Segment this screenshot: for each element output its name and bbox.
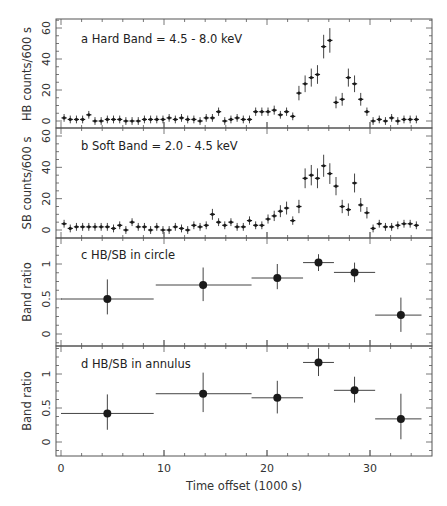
panel-d-title: d HB/SB in annulus (81, 357, 191, 371)
data-point (174, 225, 177, 228)
data-point (223, 119, 226, 122)
data-point (155, 225, 158, 228)
x-tick-label: 0 (58, 462, 65, 475)
y-tick-label: 60 (40, 129, 53, 143)
data-point (75, 225, 78, 228)
y-tick-label: 0.5 (40, 290, 53, 308)
data-point (103, 409, 111, 417)
data-point (100, 119, 103, 122)
data-point (304, 177, 307, 180)
data-point (273, 214, 276, 217)
data-point (365, 110, 368, 113)
data-point (248, 219, 251, 222)
data-point (103, 295, 111, 303)
data-point (149, 228, 152, 231)
data-point (143, 118, 146, 121)
data-point (106, 118, 109, 121)
data-point (180, 116, 183, 119)
data-point (310, 76, 313, 79)
data-point (260, 110, 263, 113)
data-point (273, 394, 281, 402)
y-tick-label: 1 (40, 371, 53, 378)
data-point (334, 101, 337, 104)
data-point (75, 118, 78, 121)
data-point (315, 358, 323, 366)
data-point (205, 224, 208, 227)
y-tick-label: 20 (40, 192, 53, 206)
data-point (359, 203, 362, 206)
data-point (199, 281, 207, 289)
y-axis-label-c: Band ratio (20, 262, 34, 322)
data-point (192, 224, 195, 227)
data-point (347, 76, 350, 79)
data-point (390, 225, 393, 228)
data-point (186, 228, 189, 231)
data-point (415, 224, 418, 227)
data-point (396, 224, 399, 227)
data-point (316, 177, 319, 180)
data-point (273, 274, 281, 282)
data-point (81, 225, 84, 228)
data-point (229, 118, 232, 121)
data-point (242, 118, 245, 121)
data-point (397, 311, 405, 319)
data-point (81, 118, 84, 121)
data-point (192, 118, 195, 121)
data-point (351, 268, 359, 276)
panel-a-title: a Hard Band = 4.5 - 8.0 keV (81, 32, 242, 46)
data-point (211, 116, 214, 119)
data-point (118, 118, 121, 121)
y-tick-label: 0 (40, 331, 53, 338)
data-point (124, 228, 127, 231)
data-point (328, 172, 331, 175)
y-tick-label: 20 (40, 83, 53, 97)
data-point (254, 110, 257, 113)
data-point (266, 217, 269, 220)
data-point (130, 119, 133, 122)
data-point (130, 221, 133, 224)
data-point (223, 224, 226, 227)
data-point (390, 116, 393, 119)
data-point (415, 118, 418, 121)
data-point (180, 227, 183, 230)
panel-c-title: c HB/SB in circle (81, 248, 175, 262)
y-axis-label-d: Band ratio (20, 371, 34, 431)
data-point (161, 228, 164, 231)
figure: 0204060020406000.5100.510102030 a Hard B… (0, 0, 447, 506)
y-tick-label: 0 (40, 118, 53, 125)
data-point (198, 225, 201, 228)
data-point (365, 211, 368, 214)
data-point (62, 116, 65, 119)
data-point (384, 225, 387, 228)
data-point (260, 224, 263, 227)
data-point (347, 208, 350, 211)
data-point (236, 225, 239, 228)
data-point (341, 98, 344, 101)
data-point (315, 259, 323, 267)
data-point (371, 227, 374, 230)
data-point (322, 164, 325, 167)
data-point (93, 119, 96, 122)
data-point (143, 225, 146, 228)
data-point (161, 118, 164, 121)
data-point (112, 227, 115, 230)
data-point (106, 225, 109, 228)
data-point (409, 222, 412, 225)
y-tick-label: 40 (40, 52, 53, 66)
data-point (155, 118, 158, 121)
data-point (341, 205, 344, 208)
data-point (93, 225, 96, 228)
data-point (297, 92, 300, 95)
data-point (254, 224, 257, 227)
data-point (273, 109, 276, 112)
data-point (310, 174, 313, 177)
data-point (69, 227, 72, 230)
data-point (236, 116, 239, 119)
data-point (316, 73, 319, 76)
data-point (248, 118, 251, 121)
data-point (124, 119, 127, 122)
data-point (211, 213, 214, 216)
x-tick-label: 30 (363, 462, 377, 475)
x-tick-label: 10 (157, 462, 171, 475)
data-point (384, 119, 387, 122)
